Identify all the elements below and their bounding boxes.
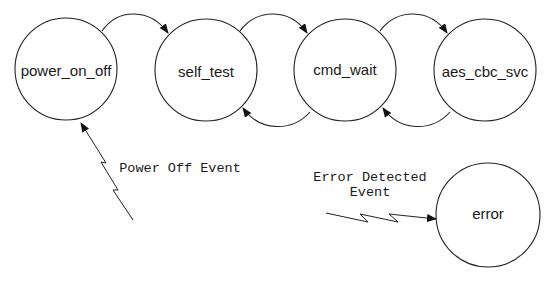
state-label: error [472, 205, 504, 222]
power-off-event-label: Power Off Event [119, 161, 241, 176]
transition-power-on-off-to-self-test [102, 14, 168, 33]
state-label: power_on_off [21, 62, 112, 79]
state-error[interactable]: error [436, 163, 540, 267]
transition-cmd-wait-to-self-test [243, 108, 310, 127]
transition-aes-cbc-svc-to-cmd-wait [383, 108, 450, 127]
lightning-bolt-arrow-icon [326, 213, 436, 222]
state-self-test[interactable]: self_test [155, 19, 257, 121]
error-detected-event-label-line-2: Event [350, 185, 391, 200]
state-label: self_test [178, 63, 235, 80]
transition-self-test-to-cmd-wait [240, 14, 307, 33]
state-power-on-off[interactable]: power_on_off [15, 18, 117, 120]
state-diagram: power_on_off self_test cmd_wait aes_cbc_… [0, 0, 555, 283]
error-detected-event-label-line-1: Error Detected [313, 170, 426, 185]
state-cmd-wait[interactable]: cmd_wait [294, 19, 396, 121]
state-label: aes_cbc_svc [442, 63, 529, 80]
state-aes-cbc-svc[interactable]: aes_cbc_svc [434, 19, 536, 121]
transition-cmd-wait-to-aes-cbc-svc [380, 14, 447, 33]
state-label: cmd_wait [313, 61, 377, 78]
